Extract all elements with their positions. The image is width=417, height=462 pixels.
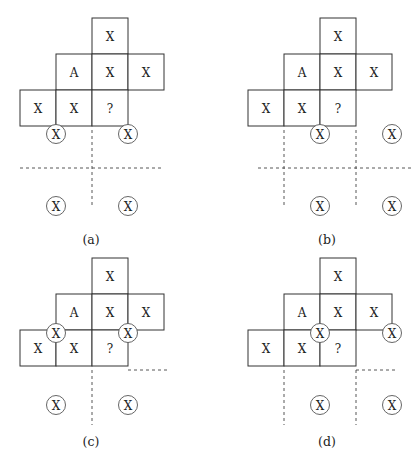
circled-x-marker: X <box>119 396 138 415</box>
cell-label: X <box>298 342 307 356</box>
circled-x-marker: X <box>119 125 138 144</box>
svg-text:X: X <box>316 327 325 341</box>
grid-cell-bot-left: X <box>248 90 284 126</box>
svg-text:X: X <box>52 327 61 341</box>
circled-x-marker: X <box>47 125 66 144</box>
panel-caption: (d) <box>318 434 336 449</box>
grid-cell-bot-left: X <box>20 90 56 126</box>
cell-label: X <box>370 66 379 80</box>
cell-label: X <box>142 306 151 320</box>
grid-cell-mid-left: A <box>284 54 320 90</box>
grid-cell-mid-right: X <box>128 294 164 330</box>
svg-text:X: X <box>388 128 397 142</box>
cell-label: ? <box>107 102 113 116</box>
svg-text:X: X <box>316 200 325 214</box>
cell-label: X <box>334 306 343 320</box>
circled-x-marker: X <box>383 197 402 216</box>
cell-label: X <box>106 306 115 320</box>
grid-cell-mid-center: X <box>320 294 356 330</box>
circled-x-marker: X <box>311 197 330 216</box>
svg-text:X: X <box>124 327 133 341</box>
cell-label: X <box>34 102 43 116</box>
cell-label: X <box>334 270 343 284</box>
grid-cell-bot-center: X <box>284 90 320 126</box>
circled-x-marker: X <box>311 324 330 343</box>
cell-label: A <box>297 306 307 320</box>
cell-label: ? <box>335 102 341 116</box>
svg-text:X: X <box>388 399 397 413</box>
circled-x-marker: X <box>47 197 66 216</box>
cell-label: ? <box>335 342 341 356</box>
grid-cell-top: X <box>320 18 356 54</box>
grid-cell-mid-center: X <box>92 54 128 90</box>
circled-x-marker: X <box>311 125 330 144</box>
cell-label: ? <box>107 342 113 356</box>
cell-label: X <box>70 102 79 116</box>
grid-cell-bot-center: X <box>56 90 92 126</box>
svg-text:X: X <box>316 399 325 413</box>
grid-cell-top: X <box>92 18 128 54</box>
grid-cell-mid-right: X <box>356 54 392 90</box>
cell-label: A <box>297 66 307 80</box>
svg-text:X: X <box>124 200 133 214</box>
panel-caption: (c) <box>83 434 100 449</box>
cell-label: X <box>106 30 115 44</box>
grid-cell-mid-left: A <box>56 294 92 330</box>
svg-text:X: X <box>388 327 397 341</box>
cell-label: X <box>106 66 115 80</box>
cell-label: X <box>34 342 43 356</box>
grid-cell-bot-left: X <box>248 330 284 366</box>
svg-text:X: X <box>52 128 61 142</box>
panel-d: XAXXXX?XXXX(d) <box>248 258 402 449</box>
cell-label: X <box>370 306 379 320</box>
circled-x-marker: X <box>47 324 66 343</box>
cell-label: X <box>262 342 271 356</box>
circled-x-marker: X <box>119 197 138 216</box>
panel-caption: (a) <box>82 232 99 247</box>
cell-label: X <box>334 30 343 44</box>
cell-label: X <box>142 66 151 80</box>
grid-cell-mid-left: A <box>56 54 92 90</box>
cell-label: X <box>106 270 115 284</box>
svg-text:X: X <box>124 128 133 142</box>
svg-text:X: X <box>52 399 61 413</box>
grid-cell-bot-query: ? <box>92 90 128 126</box>
circled-x-marker: X <box>119 324 138 343</box>
svg-text:X: X <box>388 200 397 214</box>
svg-text:X: X <box>52 200 61 214</box>
grid-cell-mid-center: X <box>320 54 356 90</box>
cell-label: A <box>69 66 79 80</box>
circled-x-marker: X <box>47 396 66 415</box>
panel-c: XAXXXX?XXXX(c) <box>20 258 168 449</box>
grid-cell-bot-query: ? <box>320 90 356 126</box>
cell-label: A <box>69 306 79 320</box>
cell-label: X <box>70 342 79 356</box>
grid-cell-top: X <box>320 258 356 294</box>
cell-label: X <box>262 102 271 116</box>
grid-cell-mid-center: X <box>92 294 128 330</box>
grid-cell-mid-right: X <box>128 54 164 90</box>
cell-label: X <box>298 102 307 116</box>
grid-cell-top: X <box>92 258 128 294</box>
grid-cell-mid-right: X <box>356 294 392 330</box>
circled-x-marker: X <box>311 396 330 415</box>
panel-caption: (b) <box>318 232 336 247</box>
svg-text:X: X <box>124 399 133 413</box>
panel-a: XAXXXX?XXXX(a) <box>20 18 164 247</box>
circled-x-marker: X <box>383 125 402 144</box>
figure-canvas: XAXXXX?XXXX(a)XAXXXX?XXXX(b)XAXXXX?XXXX(… <box>0 0 417 462</box>
circled-x-marker: X <box>383 324 402 343</box>
panel-b: XAXXXX?XXXX(b) <box>248 18 412 247</box>
grid-cell-mid-left: A <box>284 294 320 330</box>
svg-text:X: X <box>316 128 325 142</box>
cell-label: X <box>334 66 343 80</box>
circled-x-marker: X <box>383 396 402 415</box>
